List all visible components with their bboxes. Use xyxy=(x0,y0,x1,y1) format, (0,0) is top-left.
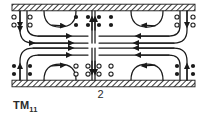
filled-dot xyxy=(97,23,101,27)
filled-dot xyxy=(12,72,16,76)
filled-dot xyxy=(97,15,101,19)
open-circle xyxy=(175,15,179,19)
open-circle xyxy=(86,72,90,76)
filled-dot xyxy=(86,15,90,19)
filled-dot xyxy=(28,72,32,76)
open-circle xyxy=(12,15,16,19)
field-line-upper-right-inner-arc xyxy=(131,11,163,27)
filled-dot xyxy=(74,15,78,19)
mode-label: TM11 xyxy=(13,99,38,114)
filled-dot xyxy=(191,72,195,76)
open-circle xyxy=(86,64,90,68)
field-line-upper-left-mid xyxy=(27,11,88,36)
open-circle xyxy=(97,72,101,76)
open-circle-markers xyxy=(12,15,195,76)
open-circle xyxy=(191,23,195,27)
filled-dot xyxy=(12,64,16,68)
open-circle xyxy=(175,23,179,27)
mode-label-subscript: 11 xyxy=(29,105,37,114)
field-line-upper-left-inner-arc xyxy=(44,11,76,27)
filled-dot xyxy=(28,64,32,68)
filled-dot xyxy=(86,23,90,27)
top-conducting-wall xyxy=(12,4,195,11)
field-line-lower-left-inner-arc xyxy=(44,64,76,80)
filled-dot-markers xyxy=(12,15,195,76)
open-circle xyxy=(74,64,78,68)
filled-dot xyxy=(109,23,113,27)
filled-dot xyxy=(191,64,195,68)
open-circle xyxy=(191,15,195,19)
open-circle xyxy=(74,72,78,76)
open-circle xyxy=(28,23,32,27)
filled-dot xyxy=(175,72,179,76)
field-line-lower-left-mid xyxy=(27,55,88,80)
field-line-lower-center-stubs xyxy=(92,48,95,80)
bottom-conducting-wall xyxy=(12,80,195,87)
open-circle xyxy=(109,64,113,68)
open-circle xyxy=(97,64,101,68)
field-line-lower-right-inner-arc xyxy=(131,64,163,80)
filled-dot xyxy=(175,64,179,68)
open-circle xyxy=(109,72,113,76)
filled-dot xyxy=(74,23,78,27)
filled-dot xyxy=(109,15,113,19)
open-circle xyxy=(28,15,32,19)
field-line-upper-center-stubs xyxy=(92,11,95,43)
open-circle xyxy=(12,23,16,27)
mode-label-text: TM xyxy=(13,99,29,111)
